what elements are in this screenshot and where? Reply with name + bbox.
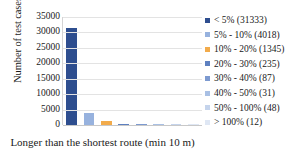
y-tick-label: 30000: [16, 27, 60, 36]
legend-label: < 5% (31333): [214, 15, 267, 25]
legend-color-swatch: [205, 47, 210, 52]
legend-color-swatch: [205, 105, 210, 110]
legend-item: 30% - 40% (87): [205, 71, 275, 85]
legend-item: > 100% (12): [205, 115, 262, 129]
legend-label: 5% - 10% (4018): [214, 30, 280, 40]
legend-color-swatch: [205, 120, 210, 125]
bar: [84, 113, 95, 125]
y-tick-label: 10000: [16, 89, 60, 98]
gridline: [63, 63, 202, 64]
gridline: [63, 17, 202, 18]
gridline: [63, 32, 202, 33]
y-tick-label: 15000: [16, 74, 60, 83]
legend-label: 10% - 20% (1345): [214, 44, 284, 54]
legend-label: 40% - 50% (31): [214, 88, 275, 98]
legend-item: 40% - 50% (31): [205, 86, 275, 100]
legend-color-swatch: [205, 32, 210, 37]
legend-label: 30% - 40% (87): [214, 73, 275, 83]
x-axis-line: [63, 125, 202, 126]
legend-color-swatch: [205, 61, 210, 66]
chart-legend: < 5% (31333)5% - 10% (4018)10% - 20% (13…: [205, 13, 301, 131]
legend-item: < 5% (31333): [205, 13, 267, 27]
legend-label: 50% - 100% (48): [214, 103, 280, 113]
x-axis-title: Longer than the shortest route (min 10 m…: [0, 136, 205, 148]
y-tick-label: 5000: [16, 105, 60, 114]
gridline: [63, 48, 202, 49]
legend-color-swatch: [205, 91, 210, 96]
bar-chart: Number of test cases 3500030000250002000…: [0, 0, 301, 158]
plot-area: [62, 17, 202, 125]
legend-label: 20% - 30% (235): [214, 59, 280, 69]
legend-item: 10% - 20% (1345): [205, 42, 284, 56]
legend-item: 5% - 10% (4018): [205, 28, 280, 42]
gridline: [63, 79, 202, 80]
y-tick-label: 0: [16, 120, 60, 129]
y-axis-tick-labels: 35000300002500020000150001000050000: [16, 13, 60, 125]
legend-label: > 100% (12): [214, 117, 262, 127]
gridline: [63, 94, 202, 95]
y-tick-label: 20000: [16, 58, 60, 67]
y-tick-label: 35000: [16, 12, 60, 21]
legend-item: 20% - 30% (235): [205, 57, 280, 71]
legend-item: 50% - 100% (48): [205, 101, 280, 115]
legend-color-swatch: [205, 18, 210, 23]
y-tick-label: 25000: [16, 43, 60, 52]
gridline: [63, 110, 202, 111]
legend-color-swatch: [205, 76, 210, 81]
